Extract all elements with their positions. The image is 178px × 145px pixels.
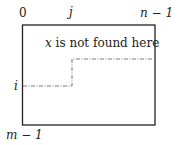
label-row-i: i — [14, 80, 18, 92]
diagram-canvas — [0, 0, 178, 145]
annotation-text: is not found here — [52, 36, 160, 50]
label-col-zero: 0 — [19, 7, 27, 19]
annotation-var: x — [45, 36, 52, 50]
label-col-j: j — [69, 6, 73, 18]
label-col-n-minus-1: n − 1 — [140, 7, 173, 19]
annotation-not-found: x is not found here — [45, 37, 159, 49]
matrix-diagram: 0 j n − 1 i m − 1 x is not found here — [0, 0, 178, 145]
staircase-boundary-line — [23, 59, 152, 86]
label-row-m-minus-1: m − 1 — [6, 129, 43, 141]
